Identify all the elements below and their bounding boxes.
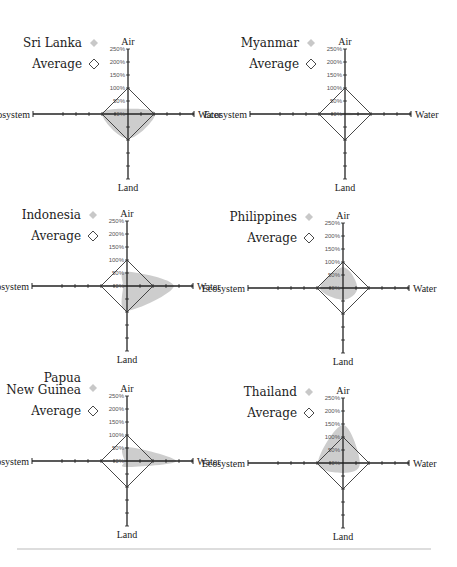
tick-label: 150% xyxy=(109,244,125,250)
legend-country-swatch xyxy=(307,39,315,47)
tick-label: 0% xyxy=(116,111,125,117)
legend-average-swatch xyxy=(304,408,314,418)
legend-average-swatch xyxy=(88,406,98,416)
radar-panel-indonesia: 0%50%100%150%200%250%AirWaterLandEcosyst… xyxy=(0,208,221,365)
legend-country-swatch xyxy=(90,39,98,47)
legend-country-swatch xyxy=(305,388,313,396)
axis-label-air: Air xyxy=(338,36,352,47)
tick-label: 200% xyxy=(109,231,125,237)
axis-label-air: Air xyxy=(120,208,134,219)
axis-label-air: Air xyxy=(336,385,350,396)
legend-country-swatch xyxy=(89,384,97,392)
radar-panel-thailand: 0%50%100%150%200%250%AirWaterLandEcosyst… xyxy=(202,385,438,542)
tick-label: 0% xyxy=(331,460,340,466)
legend-average-label: Average xyxy=(246,231,297,245)
axis-label-water: Water xyxy=(413,458,437,469)
legend-average-label: Average xyxy=(31,57,82,71)
tick-label: 200% xyxy=(327,59,343,65)
legend-country-name: Indonesia xyxy=(22,208,81,222)
legend-average-label: Average xyxy=(30,404,81,418)
tick-label: 100% xyxy=(110,85,126,91)
tick-label: 150% xyxy=(110,72,126,78)
axis-label-air: Air xyxy=(120,383,134,394)
axis-label-water: Water xyxy=(415,109,439,120)
tick-label: 150% xyxy=(109,419,125,425)
axis-label-land: Land xyxy=(118,182,139,193)
legend-average-swatch xyxy=(306,59,316,69)
radar-panel-myanmar: 0%50%100%150%200%250%AirWaterLandEcosyst… xyxy=(204,36,440,193)
tick-label: 100% xyxy=(109,257,125,263)
axis-label-land: Land xyxy=(333,356,354,367)
legend-average-swatch xyxy=(88,231,98,241)
axis-label-land: Land xyxy=(333,531,354,542)
axis-label-ecosystem: Ecosystem xyxy=(204,109,248,120)
legend-country-name: Philippines xyxy=(229,210,297,224)
tick-label: 100% xyxy=(325,259,341,265)
radar-panel-sri-lanka: 0%50%100%150%200%250%AirWaterLandEcosyst… xyxy=(0,36,222,193)
legend-average-label: Average xyxy=(30,229,81,243)
tick-label: 200% xyxy=(110,59,126,65)
tick-label: 200% xyxy=(109,406,125,412)
legend-average-label: Average xyxy=(246,406,297,420)
tick-label: 150% xyxy=(325,246,341,252)
legend-country-name: New Guinea xyxy=(6,383,81,397)
tick-label: 0% xyxy=(333,111,342,117)
radar-panel-papua-new-guinea: 0%50%100%150%200%250%AirWaterLandEcosyst… xyxy=(0,371,221,540)
axis-label-air: Air xyxy=(121,36,135,47)
tick-label: 100% xyxy=(109,432,125,438)
legend-country-swatch xyxy=(89,211,97,219)
tick-label: 150% xyxy=(327,72,343,78)
legend-country-name: Sri Lanka xyxy=(23,36,82,50)
legend-average-swatch xyxy=(89,59,99,69)
axis-label-land: Land xyxy=(335,182,356,193)
axis-label-land: Land xyxy=(117,354,138,365)
tick-label: 0% xyxy=(115,283,124,289)
legend-average-label: Average xyxy=(248,57,299,71)
axis-label-land: Land xyxy=(117,529,138,540)
legend-average-swatch xyxy=(304,233,314,243)
tick-label: 200% xyxy=(325,408,341,414)
axis-label-air: Air xyxy=(336,210,350,221)
axis-label-ecosystem: Ecosystem xyxy=(0,456,29,467)
tick-label: 100% xyxy=(325,434,341,440)
radar-chart-grid: 0%50%100%150%200%250%AirWaterLandEcosyst… xyxy=(0,0,457,567)
radar-panel-philippines: 0%50%100%150%200%250%AirWaterLandEcosyst… xyxy=(202,210,438,367)
tick-label: 200% xyxy=(325,233,341,239)
axis-label-ecosystem: Ecosystem xyxy=(0,109,30,120)
legend-country-swatch xyxy=(305,213,313,221)
legend-country-name: Myanmar xyxy=(241,36,299,50)
legend-country-name: Thailand xyxy=(244,385,297,399)
axis-label-ecosystem: Ecosystem xyxy=(202,283,246,294)
tick-label: 150% xyxy=(325,421,341,427)
axis-label-ecosystem: Ecosystem xyxy=(202,458,246,469)
axis-label-water: Water xyxy=(413,283,437,294)
tick-label: 0% xyxy=(331,285,340,291)
axis-label-ecosystem: Ecosystem xyxy=(0,281,29,292)
tick-label: 0% xyxy=(115,458,124,464)
tick-label: 100% xyxy=(327,85,343,91)
